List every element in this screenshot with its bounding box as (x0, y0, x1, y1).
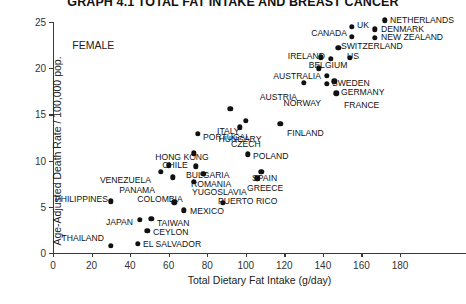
y-tick-label: 10 (35, 155, 46, 166)
data-point (334, 90, 339, 95)
x-tick-label: 80 (202, 260, 213, 271)
data-point (324, 73, 329, 78)
data-point-label: THAILAND (62, 234, 105, 243)
data-point-label: NORWAY (283, 99, 321, 108)
data-point (181, 208, 186, 213)
y-axis-title: Age-Adjusted Death Rate / 100,000 pop. (51, 56, 63, 245)
x-tick-label: 0 (50, 260, 56, 271)
data-point-label: US (347, 52, 359, 61)
data-point-label: SWITZERLAND (341, 42, 403, 51)
data-point (372, 35, 377, 40)
x-tick-mark (92, 253, 93, 257)
data-point-label: COLOMBIA (137, 195, 182, 204)
data-point (278, 121, 283, 126)
data-point-label: GERMANY (341, 88, 384, 97)
x-tick-mark (130, 253, 131, 257)
data-point-label: FINLAND (287, 129, 324, 138)
x-tick-mark (284, 253, 285, 257)
data-point-label: PORTUGAL (203, 133, 250, 142)
data-point (137, 217, 142, 222)
data-point (145, 228, 150, 233)
data-point (170, 175, 175, 180)
data-point (108, 199, 113, 204)
y-tick-label: 15 (35, 109, 46, 120)
data-point-label: FRANCE (344, 101, 379, 110)
x-tick-label: 180 (392, 260, 409, 271)
data-point-label: PUERTO RICO (218, 197, 277, 206)
x-tick-label: 40 (125, 260, 136, 271)
y-tick-label: 5 (40, 201, 46, 212)
data-point (237, 125, 242, 130)
x-tick-label: 140 (315, 260, 332, 271)
data-point (158, 169, 163, 174)
x-tick-mark (169, 253, 170, 257)
data-point-label: VENEZUELA (100, 176, 151, 185)
x-tick-label: 60 (163, 260, 174, 271)
data-point (135, 241, 140, 246)
data-point (301, 80, 306, 85)
data-point (193, 163, 198, 168)
data-point (108, 243, 113, 248)
data-point (149, 216, 154, 221)
data-point-label: MEXICO (190, 207, 224, 216)
data-point (228, 106, 233, 111)
x-tick-label: 160 (353, 260, 370, 271)
x-tick-mark (53, 253, 54, 257)
data-point (243, 118, 248, 123)
data-point-label: EL SALVADOR (143, 240, 201, 249)
data-point-label: JAPAN (106, 218, 133, 227)
y-tick-mark (49, 22, 53, 23)
x-axis-title: Total Dietary Fat Intake (g/day) (53, 274, 466, 286)
data-point (382, 17, 387, 22)
plot-area: 0510152025 020406080100120140160180 NETH… (53, 22, 400, 253)
data-point (349, 24, 354, 29)
data-point-label: POLAND (253, 152, 288, 161)
x-tick-mark (361, 253, 362, 257)
x-tick-label: 100 (237, 260, 254, 271)
data-point (324, 81, 329, 86)
x-tick-mark (207, 253, 208, 257)
y-tick-label: 20 (35, 63, 46, 74)
x-tick-mark (246, 253, 247, 257)
chart-title: GRAPH 4.1 TOTAL FAT INTAKE AND BREAST CA… (0, 0, 466, 9)
data-point-label: CEYLON (153, 228, 188, 237)
data-point-label: GREECE (247, 184, 283, 193)
data-point (245, 151, 250, 156)
data-point-label: UK (357, 21, 369, 30)
data-point-label: CHILE (162, 161, 187, 170)
data-point (349, 34, 354, 39)
data-point (372, 27, 377, 32)
x-tick-label: 120 (276, 260, 293, 271)
data-point-label: AUSTRALIA (273, 72, 321, 81)
chart-container: GRAPH 4.1 TOTAL FAT INTAKE AND BREAST CA… (0, 0, 466, 304)
x-tick-mark (323, 253, 324, 257)
x-tick-mark (400, 253, 401, 257)
data-point-label: CANADA (311, 29, 347, 38)
y-tick-label: 25 (35, 17, 46, 28)
x-axis-line (53, 253, 466, 254)
chart-annotation: FEMALE (72, 39, 114, 51)
x-tick-label: 20 (86, 260, 97, 271)
data-point-label: BELGIUM (309, 61, 348, 70)
data-point (195, 131, 200, 136)
y-tick-label: 0 (40, 248, 46, 259)
